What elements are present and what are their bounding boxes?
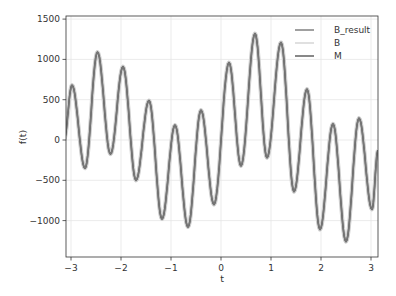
y-tick-label: 1000 <box>37 54 60 64</box>
x-axis-ticks: −3−2−10123 <box>64 257 374 273</box>
x-tick-label: 0 <box>218 263 224 273</box>
x-tick-label: −1 <box>164 263 177 273</box>
x-tick-label: 1 <box>268 263 274 273</box>
x-tick-label: −2 <box>114 263 127 273</box>
y-tick-label: −1000 <box>30 216 61 226</box>
chart: −3−2−10123 −1000−500050010001500 t f(t) … <box>0 0 396 296</box>
legend: B_resultBM <box>295 25 371 61</box>
legend-label-b: B <box>334 38 340 48</box>
y-axis-ticks: −1000−500050010001500 <box>30 14 66 226</box>
y-tick-label: 1500 <box>37 14 60 24</box>
x-tick-label: −3 <box>64 263 77 273</box>
y-tick-label: 0 <box>54 135 60 145</box>
y-axis-label: f(t) <box>17 130 28 144</box>
legend-label-m: M <box>334 51 342 61</box>
x-axis-label: t <box>220 273 224 284</box>
x-tick-label: 2 <box>318 263 324 273</box>
legend-label-b-result: B_result <box>334 25 371 35</box>
y-tick-label: 500 <box>43 95 60 105</box>
x-tick-label: 3 <box>368 263 374 273</box>
y-tick-label: −500 <box>35 175 60 185</box>
